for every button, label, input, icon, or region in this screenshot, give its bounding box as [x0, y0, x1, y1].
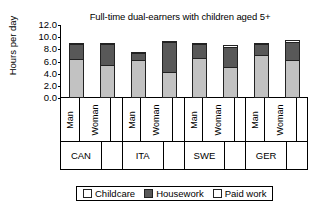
subcategory-spacer — [173, 98, 184, 141]
group-spacer — [287, 142, 307, 169]
subcategory-spacer — [235, 98, 246, 141]
y-tick-label: 12.0 — [27, 20, 57, 30]
subcategory-label: Woman — [152, 104, 162, 135]
bar-segment-paid-work — [223, 67, 238, 98]
y-tick-label: 10.0 — [27, 32, 57, 42]
bar-segment-housework — [100, 44, 115, 66]
subcategory-label: Woman — [213, 104, 223, 135]
bar-slot — [123, 25, 154, 97]
subcategory-label: Man — [250, 111, 260, 129]
bar-ita-man[interactable] — [131, 52, 146, 97]
bar-segment-paid-work — [131, 60, 146, 98]
bar-slot — [215, 25, 246, 97]
bar-segment-paid-work — [285, 60, 300, 98]
bar-group-can — [61, 25, 123, 97]
legend-label: Housework — [156, 188, 204, 199]
subcategory-spacer — [111, 98, 122, 141]
bar-ger-man[interactable] — [254, 43, 269, 97]
group-spacer — [102, 142, 123, 169]
bar-slot — [277, 25, 308, 97]
bar-slot — [92, 25, 123, 97]
bar-swe-woman[interactable] — [223, 45, 238, 97]
group-label-can: CAN — [61, 142, 102, 169]
legend-item-paid-work[interactable]: Paid work — [213, 188, 267, 199]
bar-segment-housework — [69, 44, 84, 60]
group-label-ger: GER — [246, 142, 287, 169]
y-tick-label: 4.0 — [27, 69, 57, 79]
bar-segment-paid-work — [69, 59, 84, 98]
subcategory-cell-ger-woman: Woman — [265, 98, 297, 141]
y-tick-label: 0.0 — [27, 93, 57, 103]
y-axis-label: Hours per day — [7, 10, 18, 82]
subcategory-row: ManWomanManWomanManWomanManWoman — [61, 98, 307, 142]
plot-area: 0.02.04.06.08.010.012.0 — [60, 25, 308, 98]
y-tick-label: 6.0 — [27, 57, 57, 67]
bar-group-ger — [246, 25, 308, 97]
stacked-bar-chart: Full-time dual-earners with children age… — [0, 0, 319, 212]
y-tick-label: 2.0 — [27, 81, 57, 91]
bar-groups — [61, 25, 308, 97]
bar-segment-housework — [162, 42, 177, 73]
subcategory-spacer — [297, 98, 307, 141]
subcategory-label: Woman — [275, 104, 285, 135]
bar-segment-paid-work — [254, 55, 269, 98]
bar-can-man[interactable] — [69, 43, 84, 97]
housework-swatch — [144, 189, 153, 198]
subcategory-cell-ita-man: Man — [123, 98, 142, 141]
bar-ger-woman[interactable] — [285, 40, 300, 97]
bar-slot — [185, 25, 216, 97]
subcategory-label: Man — [188, 111, 198, 129]
legend-label: Paid work — [225, 188, 267, 199]
subcategory-cell-ger-man: Man — [246, 98, 265, 141]
bar-can-woman[interactable] — [100, 43, 115, 97]
bar-segment-housework — [223, 47, 238, 68]
group-row: CANITASWEGER — [61, 142, 307, 169]
legend-item-housework[interactable]: Housework — [144, 188, 204, 199]
subcategory-cell-ita-woman: Woman — [141, 98, 173, 141]
group-spacer — [164, 142, 185, 169]
bar-slot — [61, 25, 92, 97]
subcategory-label: Woman — [90, 104, 100, 135]
subcategory-cell-can-man: Man — [61, 98, 80, 141]
bar-ita-woman[interactable] — [162, 41, 177, 97]
chart-legend: ChildcareHouseworkPaid work — [76, 186, 273, 201]
bar-segment-paid-work — [192, 58, 207, 98]
group-label-ita: ITA — [123, 142, 164, 169]
legend-label: Childcare — [95, 188, 135, 199]
bar-swe-man[interactable] — [192, 43, 207, 97]
subcategory-label: Man — [127, 111, 137, 129]
subcategory-cell-swe-man: Man — [185, 98, 204, 141]
bar-group-swe — [185, 25, 247, 97]
bar-segment-paid-work — [100, 65, 115, 98]
paid-work-swatch — [213, 189, 222, 198]
chart-title: Full-time dual-earners with children age… — [60, 11, 300, 22]
y-tick-label: 8.0 — [27, 44, 57, 54]
childcare-swatch — [83, 189, 92, 198]
group-label-swe: SWE — [185, 142, 226, 169]
subcategory-cell-can-woman: Woman — [80, 98, 112, 141]
group-spacer — [225, 142, 246, 169]
bar-segment-housework — [192, 44, 207, 59]
bar-slot — [154, 25, 185, 97]
subcategory-label: Man — [65, 111, 75, 129]
category-axis: ManWomanManWomanManWomanManWoman CANITAS… — [60, 98, 308, 170]
legend-item-childcare[interactable]: Childcare — [83, 188, 135, 199]
subcategory-cell-swe-woman: Woman — [203, 98, 235, 141]
bar-segment-paid-work — [162, 72, 177, 98]
bar-group-ita — [123, 25, 185, 97]
bar-segment-housework — [285, 42, 300, 61]
bar-slot — [246, 25, 277, 97]
